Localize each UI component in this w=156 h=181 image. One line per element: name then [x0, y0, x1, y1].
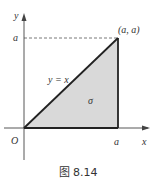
x-tick-label: a [114, 136, 119, 147]
y-axis-arrow-icon [22, 13, 27, 21]
corner-point-label: (a, a) [118, 24, 140, 36]
y-tick-label: a [13, 32, 18, 43]
x-axis-arrow-icon [142, 126, 150, 131]
x-axis-label: x [141, 136, 147, 147]
origin-label: O [11, 135, 18, 146]
diagram-canvas: y a (a, a) y = x σ O a x [0, 0, 156, 181]
y-axis-label: y [13, 10, 19, 21]
line-label: y = x [47, 74, 69, 85]
figure-caption: 图 8.14 [0, 163, 156, 179]
